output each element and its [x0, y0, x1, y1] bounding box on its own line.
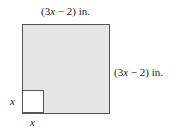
right-side-label: (3x − 2) in. — [114, 67, 163, 78]
right-label-open: (3 — [114, 66, 123, 78]
right-label-rest: − 2) in. — [128, 66, 163, 78]
small-square — [22, 90, 44, 113]
small-square-bottom-label: x — [30, 117, 35, 128]
top-label-rest: − 2) in. — [55, 5, 90, 17]
top-side-label: (3x − 2) in. — [41, 6, 90, 17]
top-label-open: (3 — [41, 5, 50, 17]
small-square-left-label: x — [10, 96, 15, 107]
